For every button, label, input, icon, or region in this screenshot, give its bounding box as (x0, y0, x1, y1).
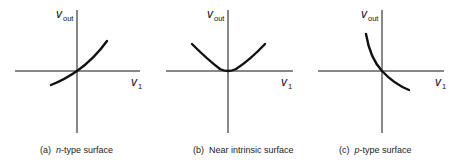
panel-a-y-subscript: out (63, 14, 73, 23)
panel-a-caption-text: -type surface (61, 145, 113, 155)
panel-c-curve (366, 34, 409, 90)
panel-c-y-subscript: out (368, 14, 378, 23)
panel-a-y-axis-label: vout (56, 8, 73, 20)
panel-b-caption-text: Near intrinsic surface (209, 145, 294, 155)
panel-c-x-var: v (435, 75, 441, 89)
panel-b-x-axis-label: v1 (281, 76, 292, 88)
panel-b-y-var: v (207, 7, 213, 21)
panel-c-y-axis-label: vout (361, 8, 378, 20)
panel-c-x-subscript: 1 (442, 82, 446, 91)
figure-canvas (0, 0, 456, 165)
panel-a-plot (15, 10, 140, 133)
panel-c-y-var: v (361, 7, 367, 21)
panel-c-caption-prefix: (c) (339, 145, 350, 155)
panel-a-curve (51, 41, 107, 85)
panel-a-x-axis-label: v1 (131, 76, 142, 88)
panel-b-caption-prefix: (b) (193, 145, 204, 155)
panel-b-y-axis-label: vout (207, 8, 224, 20)
panel-a-x-var: v (131, 75, 137, 89)
panel-a-y-var: v (56, 7, 62, 21)
panel-b-plot (166, 10, 293, 133)
panel-a-x-subscript: 1 (138, 82, 142, 91)
panel-b-caption: (b) Near intrinsic surface (193, 145, 294, 155)
panel-b-x-var: v (281, 75, 287, 89)
panel-b-y-subscript: out (214, 14, 224, 23)
panel-c-caption-text: -type surface (360, 145, 412, 155)
panel-c-plot (318, 10, 444, 133)
panel-a-caption-prefix: (a) (40, 145, 51, 155)
panel-c-x-axis-label: v1 (435, 76, 446, 88)
panel-c-caption: (c) p-type surface (339, 145, 412, 155)
panel-b-x-subscript: 1 (288, 82, 292, 91)
panel-a-caption: (a) n-type surface (40, 145, 113, 155)
